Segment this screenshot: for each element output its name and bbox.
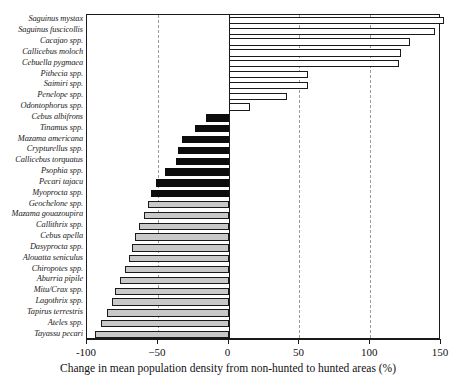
x-axis-tick xyxy=(369,339,370,344)
species-label: Dasyprocta spp. xyxy=(0,242,83,251)
species-label: Pithecia spp. xyxy=(0,69,83,78)
x-axis-tick xyxy=(440,339,441,344)
bar xyxy=(229,28,436,35)
species-label: Callithrix spp. xyxy=(0,220,83,229)
x-axis-tick xyxy=(298,339,299,344)
species-label: Saguinus fuscicollis xyxy=(0,25,83,34)
species-label: Aburria pipile xyxy=(0,274,83,283)
species-label: Cebuella pygmaea xyxy=(0,58,83,67)
bar xyxy=(229,60,399,67)
bar xyxy=(229,103,250,110)
species-label: Callicebus moloch xyxy=(0,47,83,56)
bar xyxy=(229,17,444,24)
bar xyxy=(151,190,229,197)
bar xyxy=(156,179,228,186)
bar xyxy=(101,320,228,327)
species-label: Tayassu pecari xyxy=(0,329,83,338)
x-axis-tick-label: −50 xyxy=(127,346,187,358)
bar xyxy=(229,82,308,89)
species-label: Mazama gouazoupira xyxy=(0,209,83,218)
species-label: Pecari tajacu xyxy=(0,177,83,186)
species-label: Mazama americana xyxy=(0,134,83,143)
x-axis-tick-label: 0 xyxy=(198,346,258,358)
species-label: Penelope spp. xyxy=(0,90,83,99)
bar xyxy=(148,201,229,208)
species-label: Myoprocta spp. xyxy=(0,188,83,197)
species-label: Tinamus spp. xyxy=(0,123,83,132)
bar xyxy=(229,49,402,56)
bar xyxy=(176,158,228,165)
bars-group xyxy=(87,15,439,338)
species-label: Psophia spp. xyxy=(0,166,83,175)
x-axis-line xyxy=(86,339,440,340)
bar xyxy=(115,288,228,295)
bar xyxy=(206,114,229,121)
bar xyxy=(144,212,229,219)
x-axis-tick-label: -100 xyxy=(56,346,116,358)
bar xyxy=(139,223,228,230)
x-axis-tick-label: 50 xyxy=(268,346,328,358)
bar xyxy=(120,277,229,284)
bar xyxy=(112,298,228,305)
species-label: Tapirus terrestris xyxy=(0,307,83,316)
bar xyxy=(178,147,229,154)
species-label: Alouatta seniculus xyxy=(0,253,83,262)
species-label: Saimiri spp. xyxy=(0,79,83,88)
species-label: Mitu/Crax spp. xyxy=(0,285,83,294)
bar xyxy=(229,38,410,45)
species-label: Callicebus torquatus xyxy=(0,155,83,164)
bar xyxy=(95,331,228,338)
x-axis-tick xyxy=(86,339,87,344)
species-label: Cebus albifrons xyxy=(0,112,83,121)
species-label: Ateles spp. xyxy=(0,318,83,327)
species-label: Cacajao spp. xyxy=(0,36,83,45)
chart-figure: Saguinus mystaxSaguinus fuscicollisCacaj… xyxy=(0,0,456,392)
x-axis-tick xyxy=(228,339,229,344)
species-label: Saguinus mystax xyxy=(0,14,83,23)
bar xyxy=(165,168,229,175)
bar xyxy=(125,266,228,273)
x-axis-tick xyxy=(157,339,158,344)
bar xyxy=(132,244,228,251)
x-axis-tick-label: 150 xyxy=(410,346,456,358)
species-label: Odontophorus spp. xyxy=(0,101,83,110)
species-label: Chiropotes spp. xyxy=(0,264,83,273)
bar xyxy=(129,255,228,262)
bar xyxy=(195,125,229,132)
x-axis-title: Change in mean population density from n… xyxy=(0,362,456,374)
y-axis-species-labels: Saguinus mystaxSaguinus fuscicollisCacaj… xyxy=(0,14,83,339)
bar xyxy=(229,71,308,78)
plot-area xyxy=(86,14,440,339)
species-label: Crypturellus spp. xyxy=(0,144,83,153)
species-label: Lagothrix spp. xyxy=(0,296,83,305)
x-axis-tick-label: 100 xyxy=(339,346,399,358)
bar xyxy=(135,233,228,240)
species-label: Geochelone spp. xyxy=(0,199,83,208)
bar xyxy=(229,93,287,100)
bar xyxy=(107,309,229,316)
species-label: Cebus apella xyxy=(0,231,83,240)
bar xyxy=(182,136,229,143)
